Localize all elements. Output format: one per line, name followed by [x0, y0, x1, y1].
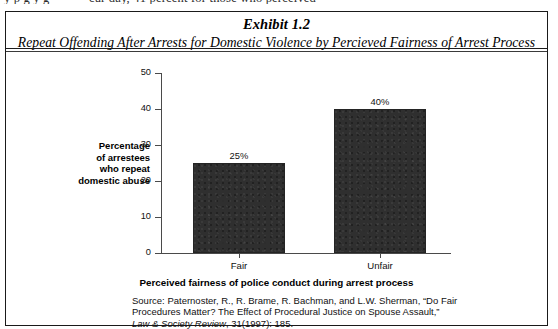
- source-line-2: Procedures Matter? The Effect of Procedu…: [132, 306, 457, 317]
- source-note: Source: Paternoster, R., R. Brame, R. Ba…: [132, 295, 457, 329]
- source-journal-title: Law & Society Review: [132, 318, 226, 329]
- title-rule-top: [6, 48, 547, 49]
- y-tick-label-0: 0: [146, 247, 151, 257]
- x-axis-title: Perceived fairness of police conduct dur…: [6, 277, 547, 288]
- y-tick-20: 20: [155, 181, 161, 182]
- x-tick-unfair: [380, 253, 381, 258]
- y-tick-30: 30: [155, 145, 161, 146]
- source-line-3: Law & Society Review, 31(1997): 185.: [132, 318, 457, 329]
- y-axis-title-line-3: who repeat: [58, 163, 150, 175]
- y-tick-label-10: 10: [141, 211, 151, 221]
- x-tick-fair: [239, 253, 240, 258]
- y-tick-0: 0: [155, 253, 161, 254]
- y-tick-50: 50: [155, 73, 161, 74]
- y-axis-line: [161, 73, 162, 253]
- x-category-label-fair: Fair: [231, 260, 248, 271]
- title-rule-bottom: [6, 51, 547, 52]
- chart-plot-area: 0 10 20 30 40 50 25% 40% Fair Unfair: [161, 62, 457, 254]
- y-tick-label-20: 20: [141, 175, 151, 185]
- page-bleed-left: y p g y g: [4, 0, 50, 4]
- bar-value-fair: 25%: [230, 150, 249, 161]
- y-tick-label-30: 30: [141, 139, 151, 149]
- bar-fair[interactable]: 25%: [193, 163, 285, 253]
- page-bleed-text: y p g y g cur day, 41 percent for those …: [0, 0, 558, 4]
- exhibit-frame: Exhibit 1.2 Repeat Offending After Arres…: [5, 11, 548, 326]
- y-axis-title-line-4: domestic abuse: [58, 175, 150, 187]
- source-journal-citation: , 31(1997): 185.: [226, 318, 293, 329]
- y-tick-label-50: 50: [141, 67, 151, 77]
- x-axis-line: [161, 253, 451, 254]
- exhibit-number: Exhibit 1.2: [6, 16, 547, 33]
- exhibit-title-block: Exhibit 1.2 Repeat Offending After Arres…: [6, 16, 547, 51]
- bar-value-unfair: 40%: [371, 96, 390, 107]
- x-category-label-unfair: Unfair: [367, 260, 393, 271]
- source-line-1: Source: Paternoster, R., R. Brame, R. Ba…: [132, 295, 457, 306]
- y-axis-title-line-1: Percentage: [58, 140, 150, 152]
- page-bleed-right: cur day, 41 percent for those who percei…: [89, 0, 316, 4]
- bar-unfair[interactable]: 40%: [334, 109, 426, 253]
- y-tick-label-40: 40: [141, 103, 151, 113]
- y-axis-title-line-2: of arrestees: [58, 152, 150, 164]
- y-axis-title: Percentage of arrestees who repeat domes…: [58, 140, 150, 186]
- y-tick-40: 40: [155, 109, 161, 110]
- y-tick-10: 10: [155, 217, 161, 218]
